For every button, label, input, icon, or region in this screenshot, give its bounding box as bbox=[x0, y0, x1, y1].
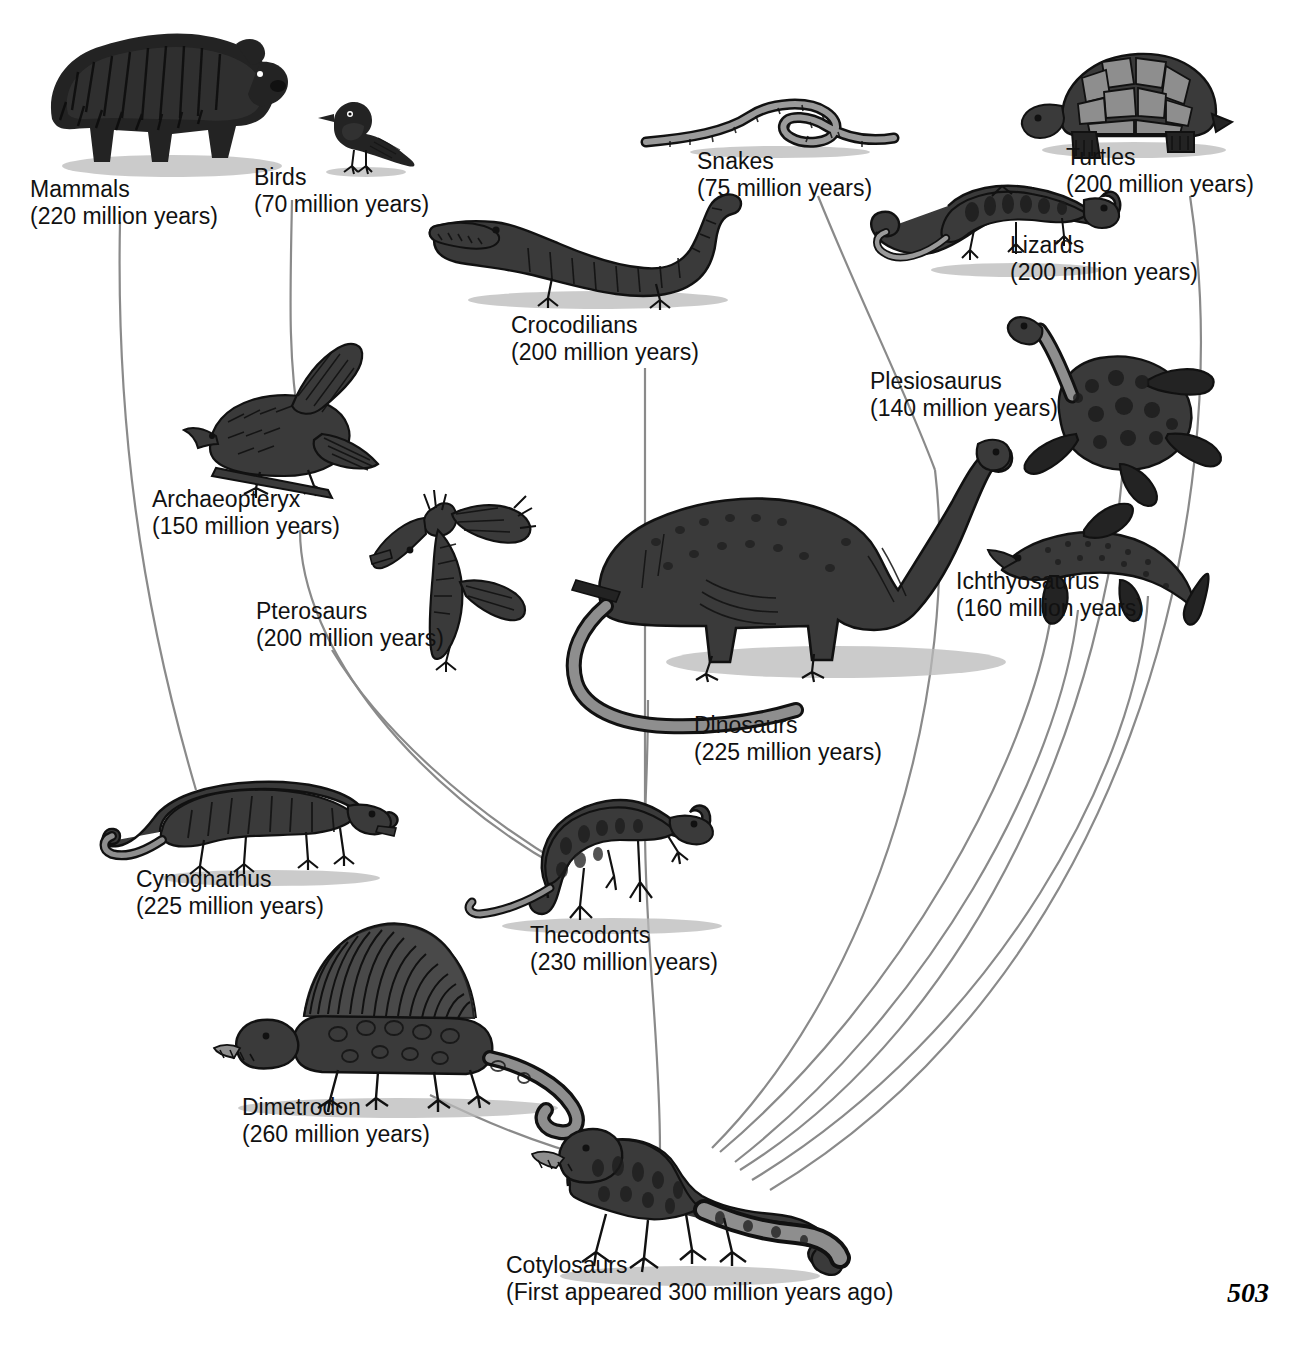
label-lizards: Lizards (200 million years) bbox=[1010, 232, 1198, 286]
label-snakes-years: (75 million years) bbox=[697, 175, 872, 202]
label-ichthyosaurus-name: Ichthyosaurus bbox=[956, 568, 1144, 595]
label-crocodilians-years: (200 million years) bbox=[511, 339, 699, 366]
label-dinosaurs: Dinosaurs (225 million years) bbox=[694, 712, 882, 766]
page-number: 503 bbox=[1227, 1277, 1269, 1309]
label-archaeopteryx: Archaeopteryx (150 million years) bbox=[152, 486, 340, 540]
label-mammals-years: (220 million years) bbox=[30, 203, 218, 230]
label-crocodilians-name: Crocodilians bbox=[511, 312, 699, 339]
label-lizards-years: (200 million years) bbox=[1010, 259, 1198, 286]
bear-illustration bbox=[22, 14, 292, 179]
label-cotylosaurs-years: (First appeared 300 million years ago) bbox=[506, 1279, 893, 1306]
label-birds-name: Birds bbox=[254, 164, 429, 191]
turtle-illustration bbox=[1016, 22, 1236, 162]
label-plesiosaurus-name: Plesiosaurus bbox=[870, 368, 1058, 395]
label-cynognathus-years: (225 million years) bbox=[136, 893, 324, 920]
label-birds-years: (70 million years) bbox=[254, 191, 429, 218]
label-dinosaurs-years: (225 million years) bbox=[694, 739, 882, 766]
label-thecodonts: Thecodonts (230 million years) bbox=[530, 922, 718, 976]
sauropod-illustration bbox=[546, 430, 1016, 740]
label-snakes: Snakes (75 million years) bbox=[697, 148, 872, 202]
label-dimetrodon-name: Dimetrodon bbox=[242, 1094, 430, 1121]
label-cotylosaurs-name: Cotylosaurs bbox=[506, 1252, 893, 1279]
label-archaeopteryx-years: (150 million years) bbox=[152, 513, 340, 540]
label-cynognathus: Cynognathus (225 million years) bbox=[136, 866, 324, 920]
label-plesiosaurus-years: (140 million years) bbox=[870, 395, 1058, 422]
label-cotylosaurs: Cotylosaurs (First appeared 300 million … bbox=[506, 1252, 893, 1306]
label-turtles-name: Turtles bbox=[1066, 144, 1254, 171]
label-pterosaurs: Pterosaurs (200 million years) bbox=[256, 598, 444, 652]
label-lizards-name: Lizards bbox=[1010, 232, 1198, 259]
label-dimetrodon: Dimetrodon (260 million years) bbox=[242, 1094, 430, 1148]
label-turtles: Turtles (200 million years) bbox=[1066, 144, 1254, 198]
label-cynognathus-name: Cynognathus bbox=[136, 866, 324, 893]
label-ichthyosaurus: Ichthyosaurus (160 million years) bbox=[956, 568, 1144, 622]
label-birds: Birds (70 million years) bbox=[254, 164, 429, 218]
label-archaeopteryx-name: Archaeopteryx bbox=[152, 486, 340, 513]
label-plesiosaurus: Plesiosaurus (140 million years) bbox=[870, 368, 1058, 422]
label-thecodonts-years: (230 million years) bbox=[530, 949, 718, 976]
label-turtles-years: (200 million years) bbox=[1066, 171, 1254, 198]
label-ichthyosaurus-years: (160 million years) bbox=[956, 595, 1144, 622]
evolution-tree-diagram: Mammals (220 million years) Birds (70 mi… bbox=[0, 0, 1289, 1355]
label-dimetrodon-years: (260 million years) bbox=[242, 1121, 430, 1148]
label-mammals: Mammals (220 million years) bbox=[30, 176, 218, 230]
archaeopteryx-illustration bbox=[182, 330, 382, 500]
label-snakes-name: Snakes bbox=[697, 148, 872, 175]
label-crocodilians: Crocodilians (200 million years) bbox=[511, 312, 699, 366]
label-dinosaurs-name: Dinosaurs bbox=[694, 712, 882, 739]
label-pterosaurs-name: Pterosaurs bbox=[256, 598, 444, 625]
label-mammals-name: Mammals bbox=[30, 176, 218, 203]
label-pterosaurs-years: (200 million years) bbox=[256, 625, 444, 652]
label-thecodonts-name: Thecodonts bbox=[530, 922, 718, 949]
